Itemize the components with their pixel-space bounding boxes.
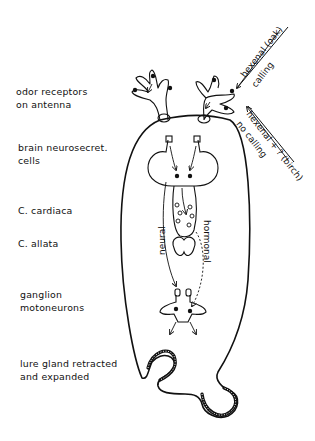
lure-gland-label: lure gland retracted and expanded: [20, 358, 117, 383]
allata-label: C. allata: [18, 238, 58, 251]
corpora-cardiaca: [173, 186, 196, 237]
brain-outline: [148, 140, 218, 186]
left-antenna: [132, 70, 169, 120]
antennae: [132, 70, 234, 123]
body-outline: [121, 116, 250, 418]
neuron-dots: [174, 174, 192, 313]
hormonal-label: hormonal: [202, 220, 212, 263]
ganglion-outline: [160, 295, 206, 322]
right-antenna: [196, 76, 234, 120]
cardiaca-label: C. cardiaca: [18, 205, 73, 218]
neural-label: neural: [157, 226, 167, 255]
corpora-allata: [173, 237, 195, 255]
odor-receptors-label: odor receptors on antenna: [16, 86, 88, 111]
lure-gland-lower: [202, 388, 236, 415]
brain-label: brain neurosecret. cells: [18, 142, 108, 167]
diagram-canvas: neural hormonal hexenal (oak) calling he…: [0, 0, 315, 441]
ganglion-label: ganglion motoneurons: [20, 289, 84, 314]
